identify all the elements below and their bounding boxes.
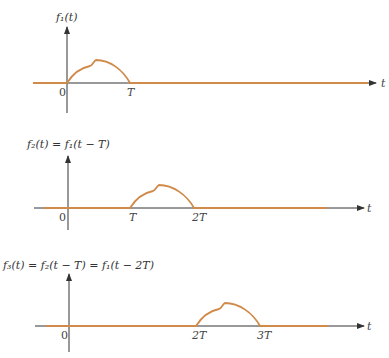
plot-title-f1: f₁(t) bbox=[55, 11, 77, 24]
plot-f1: f₁(t) t 0 T bbox=[33, 11, 386, 113]
tick-label: 0 bbox=[59, 211, 66, 224]
tick-label: 3T bbox=[257, 329, 273, 342]
t-axis-label: t bbox=[367, 202, 372, 215]
plot-title-f2: f₂(t) = f₁(t − T) bbox=[26, 138, 110, 151]
plot-title-f3: f₃(t) = f₂(t − T) = f₁(t − 2T) bbox=[2, 259, 154, 272]
tick-label: 2T bbox=[191, 211, 208, 224]
plot-f2: f₂(t) = f₁(t − T) t 0 T 2T bbox=[26, 138, 372, 230]
t-axis-label: t bbox=[367, 320, 372, 333]
tick-label: T bbox=[129, 211, 138, 224]
signal-curve-f2 bbox=[44, 185, 327, 208]
tick-label: 0 bbox=[61, 329, 68, 342]
time-shift-diagram: f₁(t) t 0 T f₂(t) = f₁(t − T) t 0 T 2T f… bbox=[0, 0, 389, 358]
tick-label: T bbox=[127, 86, 136, 99]
tick-label: 0 bbox=[59, 86, 66, 99]
signal-curve-f3 bbox=[46, 303, 328, 326]
tick-label: 2T bbox=[191, 329, 208, 342]
signal-curve-f1 bbox=[33, 60, 368, 83]
plot-f3: f₃(t) = f₂(t − T) = f₁(t − 2T) t 0 2T 3T bbox=[2, 259, 372, 352]
t-axis-label: t bbox=[381, 77, 386, 90]
